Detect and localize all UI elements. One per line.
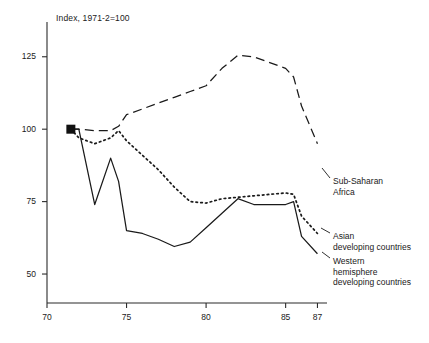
series-label-line: Asian [333, 231, 411, 242]
series-label-line: hemisphere [333, 267, 411, 278]
series-label-1: Asiandeveloping countries [333, 231, 411, 252]
series-label-line: Sub-Saharan [333, 176, 383, 187]
series-label-leader-1 [321, 228, 330, 233]
series-label-leader-0 [322, 168, 330, 178]
start-point-square-marker [66, 125, 75, 134]
y-axis-tick-label: 100 [10, 124, 36, 134]
y-axis-ticks [42, 57, 47, 274]
chart-axes [47, 22, 327, 303]
x-axis-tick-label: 87 [304, 312, 330, 322]
x-axis-ticks [47, 303, 317, 308]
series-label-leader-lines [321, 168, 330, 258]
x-axis-tick-label: 70 [34, 312, 60, 322]
series-label-0: Sub-SaharanAfrica [333, 176, 383, 197]
series-line-0 [71, 55, 318, 143]
series-label-line: developing countries [333, 242, 411, 253]
series-label-line: developing countries [333, 277, 411, 288]
series-line-1 [71, 129, 318, 233]
start-point-marker [66, 125, 75, 134]
series-label-leader-2 [322, 252, 330, 258]
x-axis-tick-label: 85 [273, 312, 299, 322]
series-label-line: Africa [333, 187, 383, 198]
y-axis-tick-label: 75 [10, 196, 36, 206]
series-label-2: Westernhemispheredeveloping countries [333, 256, 411, 288]
y-axis-tick-label: 50 [10, 269, 36, 279]
series-label-line: Western [333, 256, 411, 267]
chart-figure: Index, 1971-2=100 5075100125 7075808587 … [0, 0, 429, 343]
series-line-2 [71, 129, 318, 254]
x-axis-tick-label: 80 [193, 312, 219, 322]
chart-series-group [71, 55, 318, 253]
chart-plot-area [0, 0, 429, 343]
y-axis-tick-label: 125 [10, 51, 36, 61]
chart-axis-title: Index, 1971-2=100 [56, 13, 130, 23]
x-axis-tick-label: 75 [114, 312, 140, 322]
